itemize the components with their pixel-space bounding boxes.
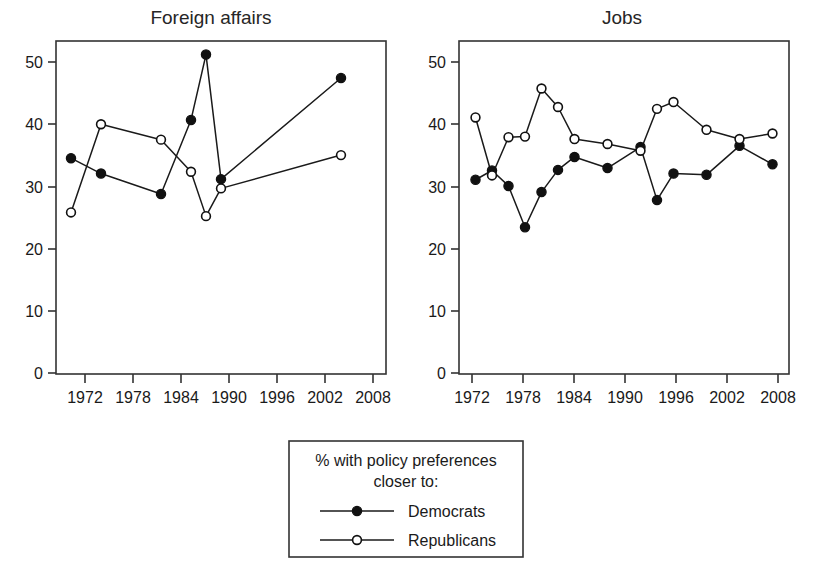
x-tick-label: 2002	[307, 389, 343, 406]
x-tick-label: 2008	[355, 389, 391, 406]
legend-title-line2: closer to:	[374, 473, 439, 490]
x-tick-label: 1972	[454, 389, 490, 406]
y-tick-label: 50	[25, 54, 43, 71]
data-point-democrats	[768, 160, 777, 169]
data-point-democrats	[96, 169, 105, 178]
x-tick-label: 1990	[211, 389, 247, 406]
data-point-republicans	[735, 135, 744, 144]
x-tick-label: 1996	[259, 389, 295, 406]
data-point-democrats	[201, 50, 210, 59]
panel-title-foreign-affairs: Foreign affairs	[150, 7, 271, 28]
data-point-democrats	[186, 115, 195, 124]
y-tick-label: 20	[428, 241, 446, 258]
y-tick-label: 10	[428, 303, 446, 320]
data-point-democrats	[603, 163, 612, 172]
y-tick-label: 10	[25, 303, 43, 320]
y-tick-label: 50	[428, 54, 446, 71]
data-point-republicans	[521, 132, 530, 141]
data-point-democrats	[520, 223, 529, 232]
data-point-republicans	[202, 212, 211, 221]
data-point-democrats	[652, 196, 661, 205]
data-point-democrats	[336, 73, 345, 82]
data-point-democrats	[702, 170, 711, 179]
data-point-republicans	[669, 98, 678, 107]
data-point-republicans	[337, 151, 346, 160]
y-tick-label: 0	[437, 365, 446, 382]
data-point-republicans	[636, 146, 645, 155]
data-point-republicans	[488, 171, 497, 180]
data-point-democrats	[570, 152, 579, 161]
y-tick-label: 40	[428, 116, 446, 133]
data-point-republicans	[653, 104, 662, 113]
data-point-republicans	[157, 135, 166, 144]
x-tick-label: 1978	[115, 389, 151, 406]
x-tick-label: 1984	[163, 389, 199, 406]
legend: % with policy preferences closer to: Dem…	[289, 441, 523, 557]
data-point-democrats	[537, 187, 546, 196]
x-tick-label: 1996	[658, 389, 694, 406]
legend-title-line1: % with policy preferences	[315, 452, 496, 469]
x-tick-label: 1972	[67, 389, 103, 406]
y-tick-label: 30	[428, 179, 446, 196]
x-tick-label: 2008	[760, 389, 796, 406]
data-point-republicans	[187, 167, 196, 176]
data-point-democrats	[216, 175, 225, 184]
panel-title-jobs: Jobs	[602, 7, 642, 28]
data-point-republicans	[217, 184, 226, 193]
data-point-democrats	[66, 154, 75, 163]
y-tick-label: 20	[25, 241, 43, 258]
data-point-republicans	[768, 129, 777, 138]
data-point-republicans	[67, 208, 76, 217]
data-point-republicans	[554, 103, 563, 112]
open-circle-icon	[353, 536, 362, 545]
data-point-republicans	[471, 113, 480, 122]
x-tick-label: 1978	[505, 389, 541, 406]
data-point-republicans	[504, 133, 513, 142]
figure-root: Foreign affairs 0 10 20 30 40 50 1972 19…	[0, 0, 813, 574]
filled-circle-icon	[352, 506, 361, 515]
x-tick-label: 1984	[556, 389, 592, 406]
data-point-democrats	[471, 175, 480, 184]
data-point-republicans	[603, 140, 612, 149]
data-point-democrats	[553, 165, 562, 174]
data-point-democrats	[156, 189, 165, 198]
x-tick-label: 1990	[607, 389, 643, 406]
data-point-republicans	[702, 125, 711, 134]
x-tick-label: 2002	[709, 389, 745, 406]
y-tick-label: 0	[34, 365, 43, 382]
data-point-democrats	[669, 169, 678, 178]
y-tick-label: 40	[25, 116, 43, 133]
legend-label-democrats: Democrats	[408, 503, 485, 520]
data-point-republicans	[537, 84, 546, 93]
y-tick-label: 30	[25, 179, 43, 196]
data-point-democrats	[504, 181, 513, 190]
legend-label-republicans: Republicans	[408, 532, 496, 549]
data-point-republicans	[97, 120, 106, 129]
data-point-republicans	[570, 135, 579, 144]
